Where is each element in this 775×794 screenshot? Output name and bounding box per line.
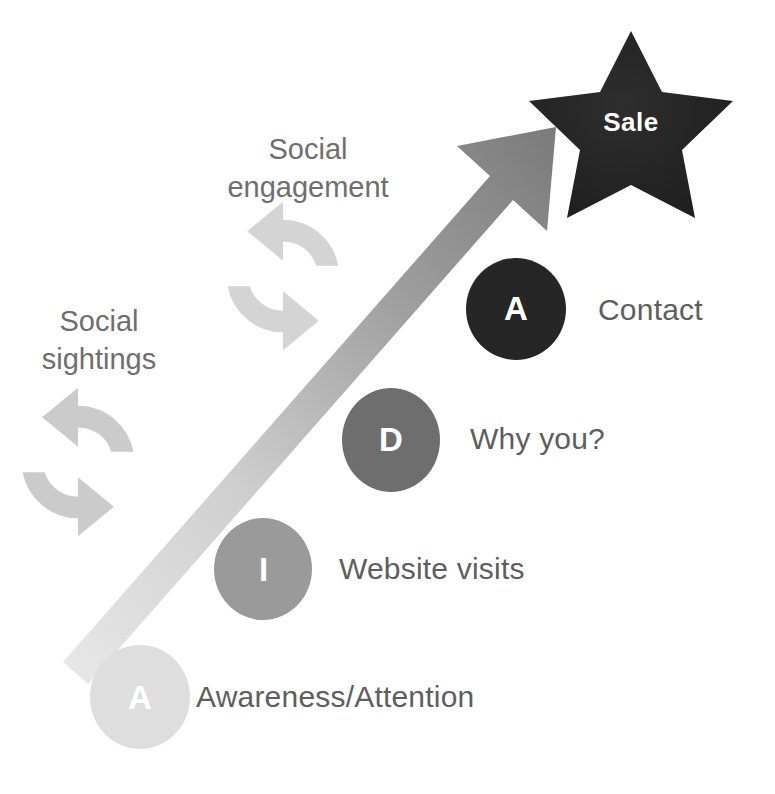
stage-letter-website-visits: I	[214, 553, 313, 586]
growth-arrow	[63, 127, 556, 684]
stage-label-contact: Contact	[598, 293, 703, 327]
cycle-label-social-engagement: Social engagement	[203, 131, 413, 206]
stage-letter-contact: A	[466, 292, 566, 325]
stage-letter-why-you: D	[342, 423, 440, 456]
stage-letter-awareness: A	[90, 681, 190, 714]
refresh-cycle-icon-engagement	[228, 202, 339, 350]
stage-label-why-you: Why you?	[470, 422, 605, 456]
cycle-label-social-sightings: Social sightings	[9, 303, 189, 378]
refresh-cycle-icon-sightings	[23, 388, 134, 536]
sale-star-label: Sale	[551, 107, 711, 138]
stage-label-awareness: Awareness/Attention	[196, 680, 474, 714]
stage-label-website-visits: Website visits	[339, 552, 525, 586]
diagram-canvas: Sale A Contact D Why you? I Website visi…	[0, 0, 775, 794]
